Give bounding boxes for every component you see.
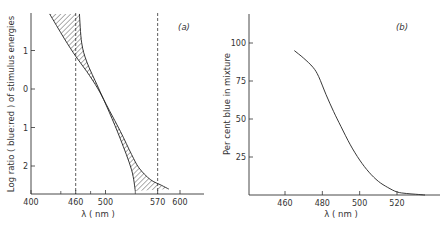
x-tick-label: 480 [315, 199, 330, 208]
x-tick-label: 460 [277, 199, 292, 208]
y-tick-label: 50 [236, 115, 246, 124]
y-tick-label: 1 [23, 47, 28, 56]
panel-b-chart: 460480500520 100755025 λ ( nm ) Per cent… [222, 14, 440, 219]
y-tick-labels: 1012 [23, 47, 35, 172]
panel-label-a: (a) [178, 22, 190, 32]
x-tick-labels: 400460500570600 [23, 190, 187, 207]
y-axis-title: Log ratio ( blue:red ) of stimulus energ… [6, 15, 16, 192]
y-tick-labels: 100755025 [231, 39, 253, 162]
x-tick-label: 520 [389, 199, 404, 208]
x-axis-title: λ ( nm ) [324, 209, 357, 219]
upper-boundary-line [79, 14, 135, 191]
y-tick-label: 25 [236, 153, 246, 162]
x-tick-label: 460 [68, 198, 83, 207]
x-tick-label: 400 [23, 198, 38, 207]
reference-lines [76, 13, 158, 194]
x-tick-label: 600 [172, 198, 187, 207]
y-tick-label: 1 [23, 124, 28, 133]
y-tick-label: 2 [23, 162, 28, 171]
figure: 400460500570600 1012 λ ( nm ) Log ratio … [0, 0, 444, 226]
y-tick-label: 100 [231, 39, 246, 48]
x-tick-label: 500 [98, 198, 113, 207]
y-axis-title: Per cent blue in mixture [222, 53, 232, 155]
y-tick-label: 0 [23, 85, 28, 94]
y-tick-label: 75 [236, 77, 246, 86]
x-tick-label: 570 [150, 198, 165, 207]
x-axis-title: λ ( nm ) [81, 209, 114, 219]
percent-blue-curve [294, 51, 425, 195]
hatched-region [50, 14, 169, 191]
hatched-area [50, 14, 169, 191]
percent-blue-line [294, 51, 425, 195]
x-tick-label: 500 [352, 199, 367, 208]
x-tick-labels: 460480500520 [277, 191, 404, 208]
panel-label-b: (b) [396, 22, 408, 32]
panel-a-chart: 400460500570600 1012 λ ( nm ) Log ratio … [6, 13, 204, 219]
